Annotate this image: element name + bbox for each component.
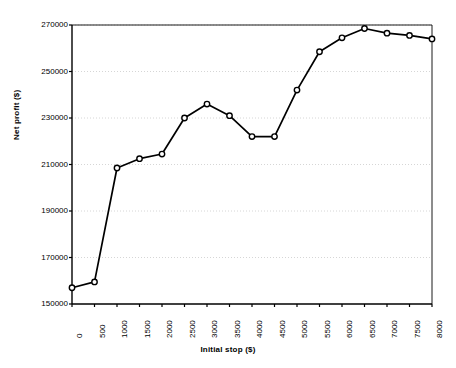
- data-point-marker: [114, 165, 119, 170]
- data-point-marker: [182, 115, 187, 120]
- data-point-marker: [294, 87, 299, 92]
- chart-figure: Net profit ($) Initial stop ($) 15000017…: [0, 0, 456, 368]
- data-point-marker: [339, 35, 344, 40]
- data-point-marker: [92, 279, 97, 284]
- data-point-marker: [407, 33, 412, 38]
- data-point-marker: [272, 134, 277, 139]
- data-point-marker: [249, 134, 254, 139]
- data-point-marker: [384, 30, 389, 35]
- plot-area: [0, 0, 456, 368]
- data-markers: [69, 26, 434, 291]
- data-point-marker: [69, 285, 74, 290]
- gridlines: [72, 25, 432, 258]
- data-point-marker: [137, 156, 142, 161]
- data-point-marker: [429, 36, 434, 41]
- data-point-marker: [204, 101, 209, 106]
- data-point-marker: [362, 26, 367, 31]
- data-line: [72, 28, 432, 287]
- data-point-marker: [159, 151, 164, 156]
- data-point-marker: [227, 113, 232, 118]
- data-point-marker: [317, 49, 322, 54]
